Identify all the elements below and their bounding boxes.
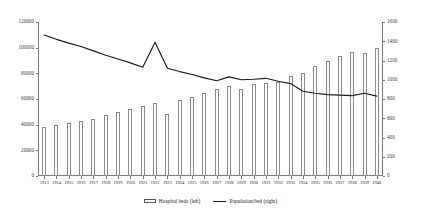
x-axis-tick-mark bbox=[143, 176, 144, 179]
x-axis-tick-mark bbox=[266, 176, 267, 179]
x-axis-tick-mark bbox=[192, 176, 193, 179]
x-axis-line bbox=[38, 175, 383, 176]
x-axis-tick-mark bbox=[328, 176, 329, 179]
plot-area bbox=[38, 22, 383, 176]
y-axis-left-tick-label: 0 bbox=[0, 173, 34, 178]
bar bbox=[363, 53, 367, 176]
x-axis-tick-mark bbox=[56, 176, 57, 179]
bar bbox=[165, 114, 169, 176]
y-axis-right-tick-mark bbox=[383, 22, 385, 23]
bar bbox=[178, 100, 182, 176]
bar bbox=[104, 115, 108, 176]
bar bbox=[116, 112, 120, 176]
y-axis-right-tick-label: 200 bbox=[387, 154, 421, 159]
bar bbox=[67, 123, 71, 176]
bar bbox=[276, 82, 280, 176]
bar-swatch-icon bbox=[144, 199, 156, 204]
bar bbox=[91, 119, 95, 176]
y-axis-left-tick-mark bbox=[36, 176, 38, 177]
x-axis-tick-label: 1940 bbox=[369, 181, 385, 186]
y-axis-right-tick-mark bbox=[383, 176, 385, 177]
x-axis-tick-mark bbox=[217, 176, 218, 179]
y-axis-left-tick-label: 80000 bbox=[0, 71, 34, 76]
bar bbox=[153, 103, 157, 176]
x-axis-tick-mark bbox=[106, 176, 107, 179]
y-axis-right-tick-mark bbox=[383, 61, 385, 62]
x-axis-tick-mark bbox=[291, 176, 292, 179]
y-axis-right-tick-mark bbox=[383, 80, 385, 81]
bar bbox=[338, 56, 342, 176]
bar bbox=[252, 84, 256, 176]
bar bbox=[190, 97, 194, 176]
bar bbox=[375, 48, 379, 176]
x-axis-tick-mark bbox=[254, 176, 255, 179]
bar bbox=[227, 86, 231, 176]
y-axis-left-tick-label: 60000 bbox=[0, 96, 34, 101]
y-axis-right-tick-label: 1600 bbox=[387, 19, 421, 24]
chart-legend: Hospital beds (left) Population/bed (rig… bbox=[0, 198, 421, 204]
bar bbox=[54, 125, 58, 176]
x-axis-tick-mark bbox=[93, 176, 94, 179]
x-axis-tick-mark bbox=[81, 176, 82, 179]
x-axis-tick-mark bbox=[241, 176, 242, 179]
bar bbox=[202, 93, 206, 176]
bar bbox=[326, 61, 330, 177]
bar bbox=[313, 66, 317, 176]
bar bbox=[264, 83, 268, 176]
y-axis-left-tick-label: 40000 bbox=[0, 122, 34, 127]
x-axis-tick-mark bbox=[167, 176, 168, 179]
y-axis-right-tick-mark bbox=[383, 99, 385, 100]
x-axis-tick-mark bbox=[229, 176, 230, 179]
x-axis-tick-mark bbox=[352, 176, 353, 179]
x-axis-tick-mark bbox=[44, 176, 45, 179]
y-axis-right-tick-label: 0 bbox=[387, 173, 421, 178]
y-axis-left-tick-label: 120000 bbox=[0, 19, 34, 24]
y-axis-left-line bbox=[38, 22, 39, 176]
y-axis-right-tick-mark bbox=[383, 138, 385, 139]
y-axis-right-tick-label: 1200 bbox=[387, 58, 421, 63]
y-axis-right-line bbox=[382, 22, 383, 176]
y-axis-left-tick-label: 100000 bbox=[0, 45, 34, 50]
bar bbox=[301, 73, 305, 176]
y-axis-right-tick-label: 400 bbox=[387, 135, 421, 140]
x-axis-tick-mark bbox=[303, 176, 304, 179]
x-axis-tick-mark bbox=[180, 176, 181, 179]
x-axis-tick-mark bbox=[204, 176, 205, 179]
bar bbox=[350, 52, 354, 176]
bar bbox=[141, 106, 145, 176]
x-axis-tick-mark bbox=[155, 176, 156, 179]
y-axis-right-tick-mark bbox=[383, 118, 385, 119]
legend-item-population-per-bed: Population/bed (right) bbox=[213, 198, 277, 204]
y-axis-right-tick-mark bbox=[383, 157, 385, 158]
y-axis-left-tick-label: 20000 bbox=[0, 148, 34, 153]
bar bbox=[215, 89, 219, 176]
y-axis-right-tick-label: 600 bbox=[387, 116, 421, 121]
x-axis-tick-mark bbox=[118, 176, 119, 179]
x-axis-tick-mark bbox=[377, 176, 378, 179]
legend-item-hospital-beds: Hospital beds (left) bbox=[144, 198, 201, 204]
legend-label-population-per-bed: Population/bed (right) bbox=[229, 198, 277, 204]
x-axis-tick-mark bbox=[365, 176, 366, 179]
x-axis-tick-mark bbox=[69, 176, 70, 179]
bar bbox=[289, 76, 293, 176]
y-axis-right-tick-label: 1000 bbox=[387, 77, 421, 82]
y-axis-right-tick-label: 800 bbox=[387, 96, 421, 101]
bar bbox=[128, 109, 132, 176]
bar bbox=[79, 121, 83, 176]
x-axis-tick-mark bbox=[278, 176, 279, 179]
line-swatch-icon bbox=[213, 201, 226, 202]
chart-container: 020000400006000080000100000120000 020040… bbox=[0, 0, 421, 219]
bar bbox=[239, 89, 243, 176]
bar bbox=[42, 127, 46, 176]
y-axis-right-tick-label: 1400 bbox=[387, 39, 421, 44]
x-axis-tick-mark bbox=[130, 176, 131, 179]
x-axis-tick-mark bbox=[315, 176, 316, 179]
legend-label-hospital-beds: Hospital beds (left) bbox=[159, 198, 201, 204]
y-axis-right-tick-mark bbox=[383, 41, 385, 42]
x-axis-tick-mark bbox=[340, 176, 341, 179]
